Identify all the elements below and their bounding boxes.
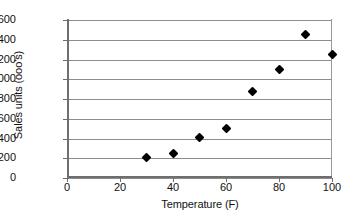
- x-tick-mark: [120, 178, 121, 182]
- x-tick-mark: [332, 178, 333, 182]
- x-axis-line: [67, 176, 332, 178]
- data-point: [327, 50, 337, 60]
- x-tick-label: 80: [259, 181, 299, 193]
- y-tick-label: 400: [0, 132, 16, 144]
- gridline: [67, 40, 332, 41]
- y-tick-label: 1200: [0, 53, 16, 65]
- plot-area: [67, 20, 332, 178]
- x-tick-label: 40: [153, 181, 193, 193]
- x-tick-label: 0: [47, 181, 87, 193]
- y-tick-label: 800: [0, 92, 16, 104]
- x-tick-mark: [279, 178, 280, 182]
- plot-right-border: [331, 19, 332, 179]
- x-tick-mark: [226, 178, 227, 182]
- y-tick-label: 0: [0, 171, 16, 183]
- data-point: [248, 87, 258, 97]
- data-point: [168, 149, 178, 159]
- y-tick-label: 1400: [0, 33, 16, 45]
- gridline: [67, 79, 332, 80]
- scatter-chart: Sales units (ooo's) 02004006008001000120…: [0, 0, 355, 220]
- y-tick-label: 200: [0, 151, 16, 163]
- gridline: [67, 99, 332, 100]
- gridline: [67, 60, 332, 61]
- y-axis-line: [67, 19, 69, 179]
- y-tick-label: 1600: [0, 13, 16, 25]
- gridline: [67, 119, 332, 120]
- data-point: [195, 133, 205, 143]
- y-tick-label: 600: [0, 112, 16, 124]
- y-tick-label: 1000: [0, 72, 16, 84]
- data-point: [142, 153, 152, 163]
- x-tick-mark: [173, 178, 174, 182]
- data-point: [301, 30, 311, 40]
- gridline: [67, 178, 332, 179]
- data-point: [274, 64, 284, 74]
- x-tick-label: 60: [206, 181, 246, 193]
- gridline: [67, 158, 332, 159]
- x-tick-label: 20: [100, 181, 140, 193]
- data-point: [221, 124, 231, 134]
- gridline: [67, 20, 332, 21]
- x-tick-label: 100: [312, 181, 352, 193]
- x-axis-title: Temperature (F): [67, 198, 333, 210]
